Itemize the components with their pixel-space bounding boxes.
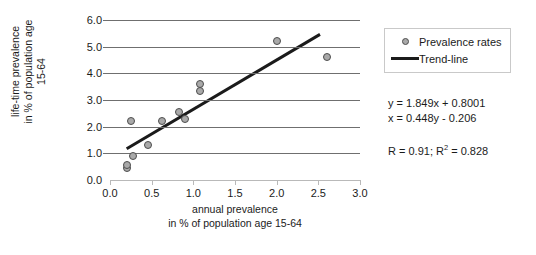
x-axis-title: annual prevalence in % of population age… <box>110 202 360 230</box>
correlation-stats: R = 0.91; R2 = 0.828 <box>388 140 488 159</box>
y-gridline <box>110 127 360 128</box>
y-axis-title: life-time prevalence in % of population … <box>9 0 48 162</box>
x-axis-tick-label: 2.0 <box>269 188 284 199</box>
data-point <box>144 141 152 149</box>
y-axis-title-line1: life-time prevalence <box>9 0 22 162</box>
y-axis-tick-label: 6.0 <box>87 15 102 26</box>
x-axis-tick <box>360 180 361 185</box>
x-axis-tick-label: 2.5 <box>311 188 326 199</box>
y-gridline <box>110 20 360 21</box>
line-marker-icon <box>391 57 419 60</box>
y-axis-tick <box>103 100 110 101</box>
x-axis-tick <box>235 180 236 185</box>
data-point <box>123 161 131 169</box>
scatter-chart-figure: life-time prevalence in % of population … <box>0 0 536 255</box>
equation-x: x = 0.448y - 0.206 <box>388 111 488 126</box>
x-axis-tick <box>152 180 153 185</box>
y-axis-title-line2: in % of population age <box>22 0 35 162</box>
legend-item-prevalence-rates: Prevalence rates <box>391 33 502 50</box>
y-gridline <box>110 47 360 48</box>
x-axis-tick-label: 0.5 <box>144 188 159 199</box>
y-gridline <box>110 153 360 154</box>
y-axis-tick <box>103 127 110 128</box>
y-axis-tick <box>103 153 110 154</box>
x-axis-title-line1: annual prevalence <box>110 202 360 216</box>
plot-area: 0.01.02.03.04.05.06.00.00.51.01.52.02.53… <box>110 20 360 180</box>
x-axis-tick <box>277 180 278 185</box>
legend-label-prevalence-rates: Prevalence rates <box>419 36 502 48</box>
circle-marker-icon <box>391 38 419 45</box>
x-axis-tick-label: 3.0 <box>352 188 367 199</box>
data-point <box>129 152 137 160</box>
x-axis-tick-label: 1.5 <box>227 188 242 199</box>
data-point <box>181 115 189 123</box>
equation-y: y = 1.849x + 0.8001 <box>388 96 488 111</box>
y-axis-tick-label: 0.0 <box>87 175 102 186</box>
chart-legend: Prevalence rates Trend-line <box>384 28 511 73</box>
x-axis-tick <box>193 180 194 185</box>
legend-label-trend-line: Trend-line <box>419 53 468 65</box>
y-axis-tick <box>103 73 110 74</box>
y-gridline <box>110 73 360 74</box>
x-axis-tick <box>110 180 111 185</box>
data-point <box>196 87 204 95</box>
x-axis-title-line2: in % of population age 15-64 <box>110 216 360 230</box>
regression-stats: y = 1.849x + 0.8001 x = 0.448y - 0.206 R… <box>388 96 488 159</box>
y-gridline <box>110 100 360 101</box>
y-axis-tick-label: 3.0 <box>87 95 102 106</box>
r-squared-value: = 0.828 <box>448 145 488 157</box>
data-point <box>158 117 166 125</box>
x-axis-tick-label: 0.0 <box>102 188 117 199</box>
y-axis-title-line3: 15-64 <box>35 0 48 162</box>
y-axis-tick-label: 2.0 <box>87 121 102 132</box>
x-axis-tick <box>318 180 319 185</box>
y-axis-tick-label: 4.0 <box>87 68 102 79</box>
r-value: R = 0.91; R <box>388 145 444 157</box>
y-axis-tick-label: 1.0 <box>87 148 102 159</box>
y-axis-tick-label: 5.0 <box>87 41 102 52</box>
y-axis-tick <box>103 47 110 48</box>
x-axis-tick-label: 1.0 <box>186 188 201 199</box>
legend-item-trend-line: Trend-line <box>391 50 502 67</box>
y-axis-tick <box>103 20 110 21</box>
data-point <box>323 53 331 61</box>
data-point <box>273 37 281 45</box>
